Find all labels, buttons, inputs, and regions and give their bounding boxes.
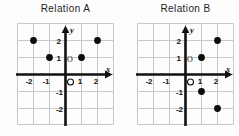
y-tick-label-neg1-a: -1 [56,88,64,97]
y-axis-label-a: y [69,25,74,35]
coordinate-grid-b: y x -2 -1 1 2 2 1 -1 -2 [136,22,236,126]
data-point [46,54,53,61]
coordinate-grid-a: y x O -2 -1 1 2 2 1 -1 -2 [16,22,116,126]
plot-area-relation-a: y x O -2 -1 1 2 2 1 -1 -2 [16,22,116,126]
x-tick-label-2-a: 2 [94,77,99,86]
data-point [214,105,221,112]
y-tick-label-2-b: 2 [177,37,182,46]
y-tick-label-1-a: 1 [57,54,62,63]
chart-panel-relation-b: Relation B [132,0,239,136]
data-point [214,37,221,44]
y-axis-label-b: y [189,25,194,35]
data-point [198,88,205,95]
x-tick-label-neg1-a: -1 [42,77,50,86]
y-tick-label-2-a: 2 [57,37,62,46]
data-point [198,54,205,61]
x-tick-label-neg2-a: -2 [25,77,33,86]
y-tick-label-neg2-b: -2 [176,105,184,114]
data-point [94,37,101,44]
data-point [78,54,85,61]
figure-canvas: Relation A [0,0,239,136]
x-tick-label-1-b: 1 [198,77,203,86]
origin-letter-b: O [187,55,193,64]
x-tick-label-2-b: 2 [214,77,219,86]
data-point [30,37,37,44]
y-tick-label-neg2-a: -2 [56,105,64,114]
x-tick-label-1-a: 1 [78,77,83,86]
origin-letter-a: O [67,55,73,64]
plot-area-relation-b: y x -2 -1 1 2 2 1 -1 -2 O [136,22,236,126]
chart-title-relation-b: Relation B [132,3,239,14]
x-tick-label-neg1-b: -1 [162,77,170,86]
x-tick-label-neg2-b: -2 [145,77,153,86]
chart-panel-relation-a: Relation A [12,0,119,136]
x-axis-label-b: x [225,64,231,74]
x-axis-label-a: x [105,64,111,74]
y-tick-label-neg1-b: -1 [176,88,184,97]
y-tick-label-1-b: 1 [177,54,182,63]
chart-title-relation-a: Relation A [12,3,119,14]
